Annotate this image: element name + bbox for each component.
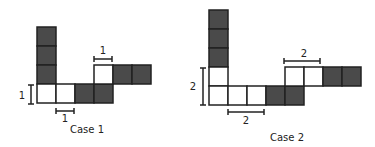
case1-square [37, 27, 56, 46]
case2-square [247, 86, 266, 105]
case2-square [228, 86, 247, 105]
case1-bottom-width-label: 1 [62, 113, 68, 124]
case2-square [342, 67, 361, 86]
case1-top-width-label: 1 [100, 45, 106, 56]
case1-square [94, 84, 113, 103]
case1-square [37, 84, 56, 103]
case1-height-marker [28, 85, 34, 104]
case2-square [285, 86, 304, 105]
case2-square [266, 86, 285, 105]
case2-square [285, 67, 304, 86]
case1-square [37, 65, 56, 84]
case2-top-width-label: 2 [301, 48, 307, 59]
diagram-canvas: 1 1 1 Case 1 2 2 2 Case 2 [0, 0, 375, 147]
case2-height-marker [200, 68, 206, 105]
case2-square [304, 67, 323, 86]
case2-square [323, 67, 342, 86]
case2-figure [209, 10, 361, 105]
case2-height-label: 2 [190, 81, 196, 92]
case1-square [113, 65, 132, 84]
case1-square [132, 65, 151, 84]
case2-square [209, 86, 228, 105]
case2-square [209, 67, 228, 86]
case1-top-width-marker [94, 56, 112, 62]
case1-square [37, 46, 56, 65]
case2-square [209, 29, 228, 48]
case1-square [75, 84, 94, 103]
case1-figure [37, 27, 151, 103]
case2-square [209, 48, 228, 67]
case2-caption: Case 2 [270, 132, 304, 143]
case1-height-label: 1 [19, 90, 25, 101]
case2-square [209, 10, 228, 29]
case1-caption: Case 1 [70, 124, 104, 135]
case1-square [94, 65, 113, 84]
case2-bottom-width-label: 2 [243, 115, 249, 126]
case1-square [56, 84, 75, 103]
